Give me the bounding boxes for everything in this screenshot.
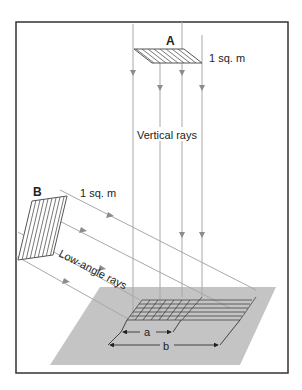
dimension-b-label: b	[163, 340, 169, 352]
panel-b-label: B	[33, 185, 42, 199]
vertical-rays-label: Vertical rays	[137, 129, 197, 141]
insolation-diagram: A 1 sq. m Vertical rays B 1 sq. m Low-an…	[0, 0, 302, 390]
panel-b-area-label: 1 sq. m	[80, 187, 116, 199]
dimension-a-label: a	[144, 326, 151, 338]
panel-a-area-label: 1 sq. m	[209, 52, 245, 64]
panel-a-label: A	[166, 34, 175, 48]
